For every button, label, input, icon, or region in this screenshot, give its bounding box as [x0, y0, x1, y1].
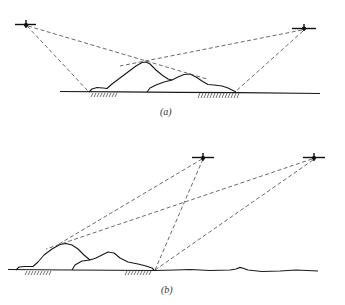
- radar-geometry-figure: (a) (b): [0, 0, 345, 305]
- airplane-icon: [303, 153, 325, 161]
- panel-a-ray-left-far: [28, 26, 207, 79]
- panel-a-hill-right: [147, 74, 236, 92]
- panel-a-hatch-left: [91, 93, 117, 97]
- panel-b-hill-left: [16, 244, 90, 271]
- panel-b-ground-line: [8, 268, 318, 272]
- panel-b-hatch-right: [125, 271, 151, 275]
- diagram-canvas: [0, 0, 345, 305]
- panel-b-ray-near-to-hill: [59, 159, 202, 244]
- panel-b: [8, 153, 325, 275]
- panel-a-ray-left-near: [27, 26, 89, 92]
- airplane-icon: [15, 20, 36, 28]
- panel-a-caption: (a): [160, 106, 172, 117]
- panel-a-hatch-right: [198, 93, 239, 98]
- airplane-icon: [292, 24, 316, 31]
- panel-b-hatch-left: [25, 271, 51, 275]
- panel-a-ray-right-far: [120, 30, 302, 66]
- airplane-icon: [192, 153, 214, 161]
- panel-a-ray-right-near: [235, 31, 303, 92]
- panel-a: [15, 20, 320, 98]
- panel-a-hill-left: [89, 62, 172, 92]
- panel-b-caption: (b): [161, 284, 173, 295]
